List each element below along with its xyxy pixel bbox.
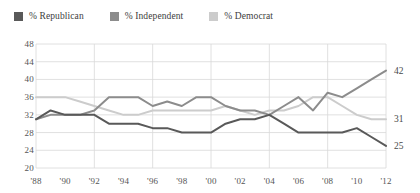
plot-area: 4844403632282420 '88'90'92'94'96'98'00'0…: [0, 0, 420, 193]
x-axis-tick-labels: '88'90'92'94'96'98'00'02'04'06'08'10'12: [0, 0, 420, 193]
x-tick-label: '88: [30, 176, 41, 186]
end-label-independent: 42: [394, 66, 404, 76]
x-tick-label: '08: [322, 176, 333, 186]
x-tick-label: '00: [205, 176, 216, 186]
x-tick-label: '96: [147, 176, 158, 186]
x-tick-label: '04: [264, 176, 275, 186]
x-tick-label: '12: [380, 176, 391, 186]
end-label-democrat: 31: [394, 114, 404, 124]
x-tick-label: '94: [118, 176, 129, 186]
x-tick-label: '92: [89, 176, 100, 186]
poll-line-chart: % Republican % Independent % Democrat 48…: [0, 0, 420, 193]
x-tick-label: '90: [60, 176, 71, 186]
x-tick-label: '10: [351, 176, 362, 186]
x-tick-label: '02: [235, 176, 246, 186]
x-tick-label: '06: [293, 176, 304, 186]
x-tick-label: '98: [176, 176, 187, 186]
end-label-republican: 25: [394, 141, 404, 151]
